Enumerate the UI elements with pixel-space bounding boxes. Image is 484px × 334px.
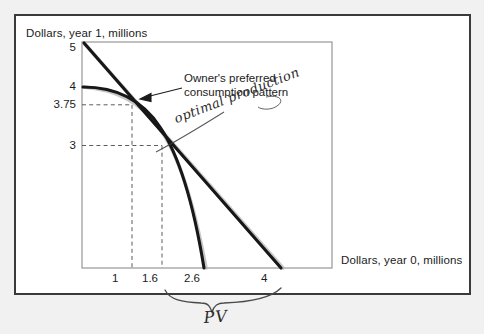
x-tick-2-6-label: 2.6	[184, 272, 200, 284]
pv-handwriting: PV	[203, 306, 229, 327]
x-tick-1-6-label: 1.6	[142, 272, 158, 284]
y-tick-5-label: 5	[32, 41, 76, 53]
y-tick-3-label: 3	[32, 139, 76, 151]
x-tick-1-label: 1	[112, 272, 118, 284]
y-axis-title: Dollars, year 1, millions	[26, 27, 147, 39]
y-tick-3-75-label: 3.75	[32, 98, 76, 110]
figure-panel	[14, 14, 471, 295]
x-tick-4-label: 4	[261, 272, 267, 284]
y-tick-4-label: 4	[32, 80, 76, 92]
x-axis-title: Dollars, year 0, millions	[341, 254, 462, 266]
